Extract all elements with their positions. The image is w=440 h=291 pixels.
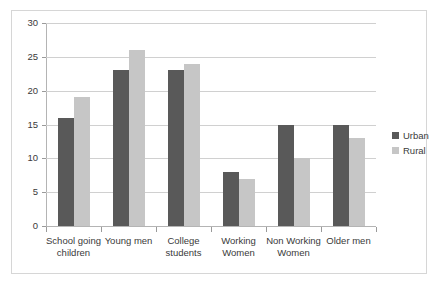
y-tick-label: 15 (16, 120, 38, 130)
legend-label: Urban (403, 130, 429, 141)
plot-area (46, 23, 376, 226)
urban-legend-swatch (392, 132, 399, 139)
bar-group (101, 23, 156, 226)
chart-frame: 051015202530 School goingchildrenYoung m… (11, 10, 427, 274)
legend-item-rural[interactable]: Rural (392, 143, 436, 158)
bar-rural[interactable] (74, 97, 90, 226)
y-tick-label: 10 (16, 153, 38, 163)
bar-urban[interactable] (58, 118, 74, 226)
bar-rural[interactable] (184, 64, 200, 226)
bar-rural[interactable] (294, 158, 310, 226)
x-tick-mark (321, 227, 322, 232)
y-tick-label: 30 (16, 18, 38, 28)
legend-label: Rural (403, 145, 426, 156)
y-tick-label: 5 (16, 187, 38, 197)
bar-rural[interactable] (129, 50, 145, 226)
category-label-line: Women (260, 247, 327, 259)
bar-urban[interactable] (168, 70, 184, 226)
category-label-line: Older men (315, 235, 382, 247)
bar-rural[interactable] (349, 138, 365, 226)
x-tick-mark (211, 227, 212, 232)
y-tick-label: 0 (16, 221, 38, 231)
y-tick-label: 25 (16, 52, 38, 62)
bar-urban[interactable] (223, 172, 239, 226)
bar-group (266, 23, 321, 226)
legend-item-urban[interactable]: Urban (392, 128, 436, 143)
bar-rural[interactable] (239, 179, 255, 226)
bar-urban[interactable] (278, 125, 294, 227)
category-label-line: children (40, 247, 107, 259)
bar-group (211, 23, 266, 226)
x-tick-mark (376, 227, 377, 232)
x-tick-mark (266, 227, 267, 232)
bar-group (46, 23, 101, 226)
rural-legend-swatch (392, 147, 399, 154)
bar-group (156, 23, 211, 226)
x-axis-category-label: Older men (315, 235, 382, 247)
bar-urban[interactable] (113, 70, 129, 226)
x-tick-mark (156, 227, 157, 232)
x-tick-mark (101, 227, 102, 232)
y-tick-label: 20 (16, 86, 38, 96)
bar-urban[interactable] (333, 125, 349, 227)
bar-group (321, 23, 376, 226)
x-tick-mark (46, 227, 47, 232)
chart-legend: UrbanRural (392, 128, 436, 158)
